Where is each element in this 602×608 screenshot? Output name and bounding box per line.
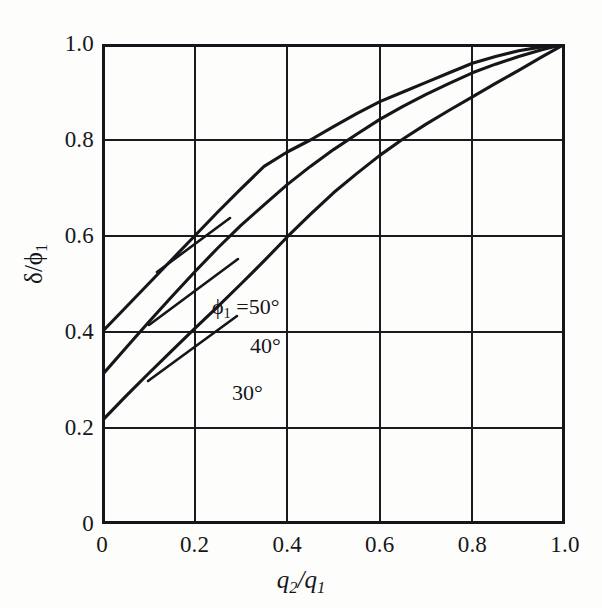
phi-subscript: 1 — [224, 305, 231, 321]
curve-annotation-phi-30: 30° — [232, 382, 263, 404]
y-axis-tick-labels: 0 0.2 0.4 0.6 0.8 1.0 — [30, 44, 94, 524]
y-tick-0: 0 — [82, 511, 94, 537]
x-axis-title-subscript-2: 1 — [317, 578, 325, 597]
curve-annotation-phi-40: 40° — [250, 335, 281, 357]
figure-canvas: 0 0.2 0.4 0.6 0.8 1.0 0 0.2 0.4 0.6 0.8 … — [0, 0, 602, 608]
y-tick-0-2: 0.2 — [65, 415, 94, 441]
y-axis-title-subscript: 1 — [32, 244, 51, 252]
plot-area: ϕ1 =50° 40° 30° — [102, 44, 565, 524]
grid-lines — [102, 44, 565, 524]
curve-annotation-phi-50-value: =50° — [231, 294, 280, 319]
x-tick-0-4: 0.4 — [273, 532, 302, 558]
leader-line-phi-30 — [148, 316, 237, 381]
x-tick-0-2: 0.2 — [180, 532, 209, 558]
x-tick-0-6: 0.6 — [365, 532, 394, 558]
y-tick-0-4: 0.4 — [65, 319, 94, 345]
y-tick-0-8: 0.8 — [65, 127, 94, 153]
x-axis-title-mid: /q — [298, 566, 317, 593]
y-tick-1-0: 1.0 — [65, 31, 94, 57]
curve-annotation-phi-50: ϕ1 =50° — [212, 296, 280, 321]
x-axis-title-main: q — [277, 566, 290, 593]
plot-frame — [104, 46, 564, 523]
y-tick-0-6: 0.6 — [65, 223, 94, 249]
x-tick-1-0: 1.0 — [550, 532, 579, 558]
x-axis-tick-labels: 0 0.2 0.4 0.6 0.8 1.0 — [102, 532, 565, 564]
x-tick-0: 0 — [96, 532, 108, 558]
x-tick-0-8: 0.8 — [458, 532, 487, 558]
y-axis-title-main: δ/ϕ — [20, 252, 47, 284]
plot-graphics — [102, 44, 565, 524]
phi-symbol: ϕ — [212, 294, 224, 319]
curve-phi-50 — [102, 44, 565, 332]
x-axis-title-subscript-1: 2 — [289, 578, 297, 597]
curve-phi-40 — [102, 44, 565, 375]
y-axis-title: δ/ϕ1 — [20, 244, 52, 284]
x-axis-title: q2/q1 — [0, 566, 602, 598]
